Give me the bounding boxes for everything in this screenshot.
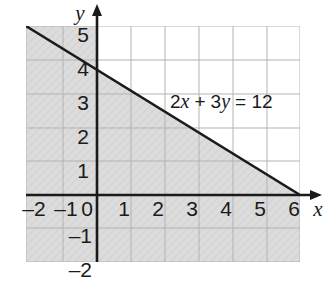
equation-plus: + <box>194 91 205 112</box>
ytick-3: 3 <box>77 91 89 114</box>
y-axis-arrow-icon <box>92 4 102 16</box>
coordinate-plane-graph: y x –2 –1 0 1 2 3 4 5 6 5 4 3 2 1 –1 –2 … <box>0 0 330 293</box>
ytick-4: 4 <box>77 57 89 80</box>
ytick-neg1: –1 <box>69 224 92 247</box>
svg-text:2x+3y= 12: 2x+3y= 12 <box>170 90 273 113</box>
xtick-1: 1 <box>118 197 130 220</box>
xtick-6: 6 <box>288 197 300 220</box>
equation-coef-y: 3 <box>211 91 222 112</box>
xtick-0: 0 <box>81 197 93 220</box>
xtick-neg1: –1 <box>54 197 77 220</box>
equation-equals-value: = 12 <box>235 91 273 112</box>
equation-label: 2x+3y= 12 <box>170 90 273 113</box>
ytick-2: 2 <box>77 125 89 148</box>
y-axis-label: y <box>73 1 85 25</box>
ytick-5: 5 <box>77 23 89 46</box>
graph-figure: y x –2 –1 0 1 2 3 4 5 6 5 4 3 2 1 –1 –2 … <box>0 0 330 293</box>
shaded-region <box>26 26 300 262</box>
x-axis-label: x <box>312 197 323 221</box>
equation-coef-x: 2 <box>170 91 181 112</box>
xtick-2: 2 <box>152 197 164 220</box>
xtick-3: 3 <box>186 197 198 220</box>
ytick-neg2: –2 <box>69 258 92 281</box>
xtick-5: 5 <box>254 197 266 220</box>
xtick-neg2: –2 <box>22 197 45 220</box>
ytick-1: 1 <box>77 159 89 182</box>
xtick-4: 4 <box>220 197 232 220</box>
equation-var-y: y <box>219 90 230 113</box>
equation-var-x: x <box>180 90 190 112</box>
shaded-region-lower <box>26 26 300 262</box>
